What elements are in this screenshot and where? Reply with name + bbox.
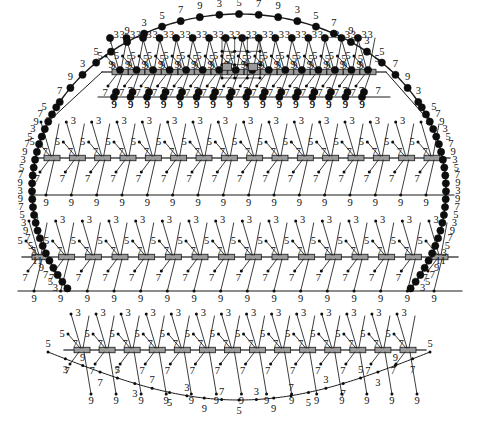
branch-mid-node[interactable] [113,141,116,144]
branch-mid-node[interactable] [117,333,120,336]
right-arc-node[interactable] [437,227,444,234]
branch-mid-node[interactable] [353,55,356,58]
upper-band-node[interactable] [149,66,156,73]
branch-mid-node[interactable] [315,141,318,144]
branch-mid-node[interactable] [239,141,242,144]
branch-upper-node[interactable] [81,220,84,223]
branch-mid-node[interactable] [187,55,190,58]
detail-sub-box[interactable] [223,63,232,70]
upper-band-node[interactable] [298,66,305,73]
branch-upper-node[interactable] [134,220,137,223]
branch-mid-node[interactable] [142,333,145,336]
branch-upper-node[interactable] [192,121,195,124]
top-arc-node[interactable] [347,38,354,45]
right-arc-node[interactable] [437,148,444,155]
branch-mid-node[interactable] [253,55,256,58]
branch-upper-node[interactable] [270,313,273,316]
bottom-arc-node[interactable] [394,364,397,367]
detail-grid-node[interactable] [221,77,224,80]
top-arc-node[interactable] [196,14,203,21]
top-arc-node[interactable] [56,98,63,105]
left-arc-node[interactable] [29,180,36,187]
branch-mid-node[interactable] [92,333,95,336]
branch-mid-node[interactable] [138,141,141,144]
branch-mid-node[interactable] [265,141,268,144]
upper-band-top-node[interactable] [156,34,163,41]
branch-upper-node[interactable] [141,121,144,124]
top-arc-node[interactable] [294,18,301,25]
bottom-arc-node[interactable] [324,387,327,390]
right-arc-node[interactable] [439,156,446,163]
branch-mid-node[interactable] [345,240,348,243]
branch-upper-node[interactable] [188,220,191,223]
right-arc-node[interactable] [433,133,440,140]
right-arc-node[interactable] [442,188,449,195]
branch-upper-node[interactable] [369,121,372,124]
upper-band-node[interactable] [265,66,272,73]
branch-mid-node[interactable] [265,240,268,243]
branch-mid-node[interactable] [189,141,192,144]
branch-upper-node[interactable] [348,220,351,223]
branch-mid-node[interactable] [318,240,321,243]
branch-upper-node[interactable] [394,121,397,124]
branch-mid-node[interactable] [319,55,322,58]
top-arc-node[interactable] [158,23,165,30]
upper-band-top-node[interactable] [272,34,279,41]
left-arc-node[interactable] [33,148,40,155]
upper-band-node[interactable] [183,66,190,73]
branch-mid-node[interactable] [154,55,157,58]
branch-mid-node[interactable] [105,55,108,58]
left-arc-node[interactable] [36,235,43,242]
branch-mid-node[interactable] [51,240,54,243]
branch-mid-node[interactable] [171,55,174,58]
branch-upper-node[interactable] [161,220,164,223]
branch-upper-node[interactable] [195,313,198,316]
bottom-arc-node[interactable] [429,351,432,354]
branch-upper-node[interactable] [220,313,223,316]
branch-mid-node[interactable] [371,240,374,243]
detail-grid-node[interactable] [246,77,249,80]
branch-mid-node[interactable] [398,240,401,243]
branch-upper-node[interactable] [370,313,373,316]
upper-band-top-node[interactable] [206,34,213,41]
bottom-arc-node[interactable] [411,357,414,360]
bottom-arc-node[interactable] [272,397,275,400]
right-arc-node[interactable] [430,125,437,132]
branch-upper-node[interactable] [166,121,169,124]
branch-upper-node[interactable] [40,121,43,124]
branch-mid-node[interactable] [105,240,108,243]
branch-upper-node[interactable] [401,220,404,223]
left-arc-node[interactable] [50,264,57,271]
bottom-arc-node[interactable] [64,357,67,360]
upper-band-top-node[interactable] [305,34,312,41]
left-arc-node[interactable] [54,271,61,278]
branch-mid-node[interactable] [391,141,394,144]
detail-grid-node[interactable] [259,63,262,66]
branch-mid-node[interactable] [290,141,293,144]
bottom-arc-node[interactable] [116,376,119,379]
branch-mid-node[interactable] [158,240,161,243]
detail-sub-box[interactable] [249,63,258,70]
upper-band-node[interactable] [331,66,338,73]
branch-upper-node[interactable] [108,220,111,223]
upper-band-node[interactable] [315,66,322,73]
branch-mid-node[interactable] [87,141,90,144]
top-arc-node[interactable] [363,48,370,55]
bottom-arc-node[interactable] [47,351,50,354]
top-arc-node[interactable] [93,59,100,66]
branch-mid-node[interactable] [163,141,166,144]
upper-band-top-node[interactable] [321,34,328,41]
branch-upper-node[interactable] [428,220,431,223]
left-arc-node[interactable] [30,164,37,171]
top-arc-node[interactable] [79,71,86,78]
branch-upper-node[interactable] [241,220,244,223]
bottom-arc-node[interactable] [168,391,171,394]
branch-upper-node[interactable] [170,313,173,316]
upper-band-top-node[interactable] [189,34,196,41]
branch-mid-node[interactable] [417,141,420,144]
branch-upper-node[interactable] [217,121,220,124]
top-arc-node[interactable] [404,84,411,91]
right-arc-node[interactable] [441,164,448,171]
left-arc-node[interactable] [29,172,36,179]
left-arc-node[interactable] [42,250,49,257]
